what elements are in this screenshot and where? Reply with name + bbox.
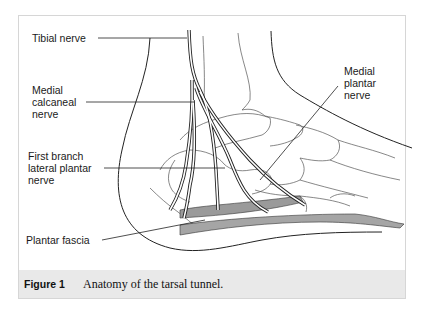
figure-caption: Figure 1 Anatomy of the tarsal tunnel. — [18, 270, 406, 299]
label-tibial-nerve: Tibial nerve — [32, 32, 86, 44]
abductor-muscle — [180, 196, 303, 218]
label-medial-calcaneal-nerve: Medial calcaneal nerve — [32, 84, 76, 120]
label-medial-plantar-nerve: Medial plantar nerve — [344, 65, 376, 101]
label-first-branch-lateral-plantar-nerve: First branch lateral plantar nerve — [28, 150, 92, 186]
caption-figure-number: Figure 1 — [24, 278, 65, 290]
caption-text: Anatomy of the tarsal tunnel. — [83, 277, 223, 292]
label-plantar-fascia: Plantar fascia — [26, 234, 90, 246]
tibia-outline — [238, 33, 250, 110]
dorsum-outline — [271, 31, 412, 148]
